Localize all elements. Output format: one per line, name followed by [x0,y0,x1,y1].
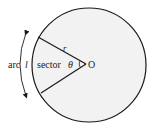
center-label: O [88,59,95,70]
radius-label: r [63,43,67,53]
angle-label: θ [68,59,73,70]
arc-label: arc [8,59,21,70]
circle-sector-diagram: arc l sector r θ O [0,0,148,131]
arc-variable-label: l [25,59,28,70]
sector-label: sector [37,59,62,70]
